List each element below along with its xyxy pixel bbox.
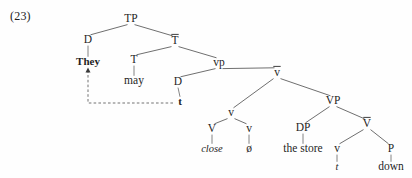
tree-node-t1: t: [178, 95, 182, 107]
tree-branch: [337, 107, 365, 119]
tree-node-V1: V: [208, 122, 217, 134]
tree-branch: [235, 119, 247, 124]
movement-arrowhead: [86, 67, 91, 72]
tree-node-VP: VP: [326, 94, 341, 106]
tree-node-DP: DP: [296, 121, 311, 133]
tree-branch: [181, 69, 216, 77]
tree-node-vp: vp: [213, 56, 225, 69]
bar-overlines: [171, 34, 370, 117]
tree-branches: [88, 25, 391, 162]
tree-node-v3: v: [334, 142, 340, 154]
tree-node-Tbar: T: [171, 34, 178, 46]
tree-branch: [179, 47, 217, 58]
figure-canvas: (23) TPDTheyTTmayvpDtvvVclosevøVPDPthe s…: [0, 0, 412, 178]
tree-node-thestore: the store: [283, 142, 322, 154]
tree-node-vbar: v: [274, 66, 280, 78]
tree-node-T: T: [130, 53, 137, 65]
tree-node-D2: D: [174, 75, 182, 87]
tree-branch: [215, 119, 228, 124]
tree-node-v1: v: [228, 106, 234, 118]
tree-node-v2: v: [246, 122, 252, 134]
tree-node-D1: D: [84, 33, 92, 45]
tree-node-t2: t: [336, 161, 340, 172]
tree-node-labels: TPDTheyTTmayvpDtvvVclosevøVPDPthe storeV…: [76, 12, 404, 172]
tree-branch: [137, 47, 172, 55]
tree-node-may: may: [124, 74, 144, 87]
tree-branch: [135, 25, 173, 36]
tree-branch: [371, 130, 389, 144]
tree-node-TP: TP: [124, 12, 137, 24]
tree-branch: [281, 79, 331, 96]
tree-branch: [234, 79, 274, 108]
tree-branch: [340, 130, 364, 144]
tree-node-down: down: [378, 160, 404, 172]
tree-branch: [91, 25, 128, 35]
tree-branch: [223, 68, 275, 69]
tree-node-P: P: [388, 142, 394, 154]
syntax-tree-diagram: TPDTheyTTmayvpDtvvVclosevøVPDPthe storeV…: [0, 0, 412, 178]
tree-node-They: They: [76, 55, 100, 67]
tree-node-null: ø: [246, 142, 252, 154]
tree-node-close: close: [201, 143, 223, 154]
tree-node-Vbar: V: [363, 117, 372, 129]
